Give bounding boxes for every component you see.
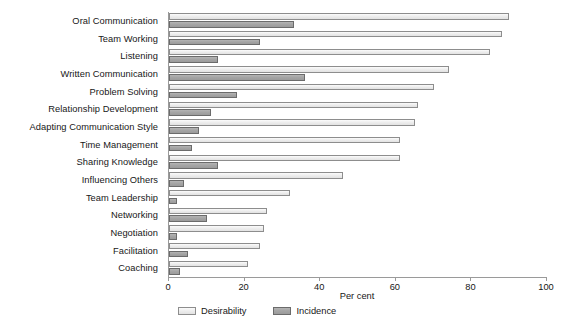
bar-group [169, 100, 547, 118]
legend-swatch-incidence [273, 307, 291, 316]
legend-item-incidence[interactable]: Incidence [273, 306, 336, 316]
category-label: Networking [0, 210, 158, 220]
bar-group [169, 136, 547, 154]
category-label: Problem Solving [0, 87, 158, 97]
category-axis-labels: Oral CommunicationTeam WorkingListeningW… [0, 12, 163, 277]
category-label: Negotiation [0, 228, 158, 238]
bar-incidence [169, 233, 177, 240]
bar-incidence [169, 56, 218, 63]
bar-desirability [169, 261, 248, 268]
bar-desirability [169, 119, 415, 126]
category-label: Oral Communication [0, 16, 158, 26]
category-label: Coaching [0, 263, 158, 273]
category-label: Facilitation [0, 246, 158, 256]
category-label: Adapting Communication Style [0, 122, 158, 132]
x-tick-mark [546, 277, 547, 281]
bar-incidence [169, 92, 237, 99]
bar-group [169, 224, 547, 242]
bar-group [169, 171, 547, 189]
bar-desirability [169, 31, 502, 38]
category-label: Team Leadership [0, 193, 158, 203]
legend-label: Desirability [201, 306, 246, 316]
bar-group [169, 118, 547, 136]
legend-swatch-desirability [178, 307, 196, 316]
bar-incidence [169, 180, 184, 187]
bar-group [169, 12, 547, 30]
bar-incidence [169, 198, 177, 205]
x-axis-title: Per cent [168, 291, 546, 301]
category-label: Relationship Development [0, 104, 158, 114]
bar-desirability [169, 66, 449, 73]
category-label: Sharing Knowledge [0, 157, 158, 167]
x-tick-mark [244, 277, 245, 281]
bar-group [169, 153, 547, 171]
bar-group [169, 65, 547, 83]
chart-legend: DesirabilityIncidence [178, 306, 336, 316]
bar-chart: Oral CommunicationTeam WorkingListeningW… [0, 0, 573, 331]
bar-desirability [169, 84, 434, 91]
bar-group [169, 30, 547, 48]
bar-desirability [169, 137, 400, 144]
bar-group [169, 47, 547, 65]
category-label: Influencing Others [0, 175, 158, 185]
bar-incidence [169, 21, 294, 28]
bar-group [169, 206, 547, 224]
bar-desirability [169, 13, 509, 20]
bar-incidence [169, 109, 211, 116]
bar-desirability [169, 102, 418, 109]
category-label: Time Management [0, 140, 158, 150]
bar-desirability [169, 225, 264, 232]
category-label: Listening [0, 51, 158, 61]
legend-label: Incidence [296, 306, 336, 316]
bar-desirability [169, 155, 400, 162]
x-tick-mark [395, 277, 396, 281]
x-tick-mark [319, 277, 320, 281]
plot-area [168, 12, 547, 278]
bar-group [169, 83, 547, 101]
bar-incidence [169, 162, 218, 169]
bar-incidence [169, 145, 192, 152]
bar-desirability [169, 190, 290, 197]
bar-desirability [169, 243, 260, 250]
x-tick-mark [168, 277, 169, 281]
bar-incidence [169, 74, 305, 81]
bar-incidence [169, 215, 207, 222]
bar-group [169, 189, 547, 207]
bar-incidence [169, 39, 260, 46]
bar-group [169, 259, 547, 277]
bar-group [169, 242, 547, 260]
x-tick-mark [470, 277, 471, 281]
bar-desirability [169, 49, 490, 56]
bar-incidence [169, 268, 180, 275]
bar-incidence [169, 127, 199, 134]
legend-item-desirability[interactable]: Desirability [178, 306, 246, 316]
bar-incidence [169, 251, 188, 258]
category-label: Written Communication [0, 69, 158, 79]
bar-desirability [169, 208, 267, 215]
category-label: Team Working [0, 34, 158, 44]
bar-desirability [169, 172, 343, 179]
